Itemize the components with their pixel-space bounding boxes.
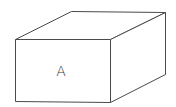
box-label: A [56,63,66,79]
box-diagram: A [0,0,176,107]
